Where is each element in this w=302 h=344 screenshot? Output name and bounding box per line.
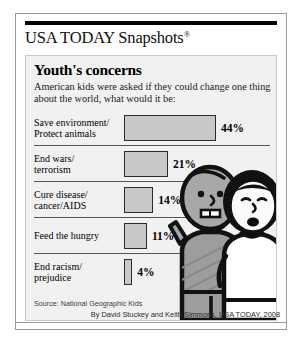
bar-row: Save environment/Protect animals44% [34, 110, 270, 145]
bar-row: End wars/terrorism21% [34, 145, 270, 181]
bar-value-label: 4% [137, 266, 154, 278]
bar-container: 11% [124, 223, 174, 249]
source-note: Source: National Geographic Kids [34, 299, 142, 308]
bar-container: 21% [124, 151, 196, 177]
bar-container: 4% [124, 259, 155, 285]
bar-row-label: Save environment/Protect animals [34, 116, 120, 138]
bar [124, 151, 168, 177]
chart-subtitle: American kids were asked if they could c… [34, 81, 272, 104]
bar-row-label: Feed the hungry [34, 230, 120, 241]
bar-container: 44% [124, 115, 244, 141]
bar [124, 223, 147, 249]
bar-container: 14% [124, 187, 181, 213]
bar-value-label: 11% [152, 230, 174, 242]
bar-row: Cure disease/cancer/AIDS14% [34, 181, 270, 217]
snapshot-frame: USA TODAY Snapshots® Youth's concerns Am… [15, 13, 287, 330]
brand-header: USA TODAY Snapshots® [25, 21, 277, 48]
brand-title: USA TODAY Snapshots® [25, 25, 277, 48]
bar-chart: Save environment/Protect animals44%End w… [34, 110, 270, 289]
bar-row: Feed the hungry11% [34, 217, 270, 253]
bar-value-label: 44% [221, 122, 244, 134]
bar-row-label: Cure disease/cancer/AIDS [34, 188, 120, 210]
bar-value-label: 21% [173, 158, 196, 170]
bar [124, 187, 153, 213]
registered-trademark-icon: ® [184, 29, 191, 39]
byline: By David Stuckey and Keith Simmons, USA … [91, 310, 280, 319]
bar-row-label: End wars/terrorism [34, 152, 120, 174]
bar-value-label: 14% [158, 194, 181, 206]
chart-panel: Youth's concerns American kids were aske… [25, 55, 277, 321]
chart-title: Youth's concerns [34, 61, 142, 79]
bar [124, 115, 216, 141]
bar [124, 259, 132, 285]
brand-name: USA TODAY Snapshots [25, 28, 184, 47]
bar-row-label: End racism/prejudice [34, 260, 120, 282]
byline-separator [16, 322, 286, 323]
bar-row: End racism/prejudice4% [34, 253, 270, 289]
